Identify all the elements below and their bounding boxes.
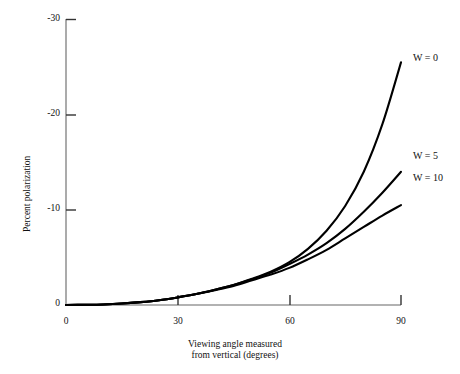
y-tick-label-30: -30 bbox=[26, 13, 60, 24]
curve-w-10 bbox=[66, 205, 401, 305]
x-tick-label-0: 0 bbox=[51, 316, 81, 327]
x-tick-label-30: 30 bbox=[163, 316, 193, 327]
y-axis-title: Percent polarization bbox=[22, 156, 33, 232]
data-curves bbox=[66, 62, 401, 305]
y-tick-label-0: 0 bbox=[26, 298, 60, 309]
chart-figure: -30 -20 -10 0 0 30 60 90 Percent polariz… bbox=[0, 0, 460, 374]
curve-label-w5: W = 5 bbox=[413, 150, 438, 162]
y-tick-label-20: -20 bbox=[26, 108, 60, 119]
x-axis-title-line2: from vertical (degrees) bbox=[135, 350, 335, 361]
curve-label-w10: W = 10 bbox=[413, 172, 443, 184]
x-axis-title-line1: Viewing angle measured bbox=[135, 339, 335, 350]
x-tick-label-90: 90 bbox=[386, 316, 416, 327]
x-tick-label-60: 60 bbox=[275, 316, 305, 327]
curve-label-w0: W = 0 bbox=[413, 52, 438, 64]
curve-w-0 bbox=[66, 62, 401, 305]
x-axis-title: Viewing angle measured from vertical (de… bbox=[135, 339, 335, 361]
